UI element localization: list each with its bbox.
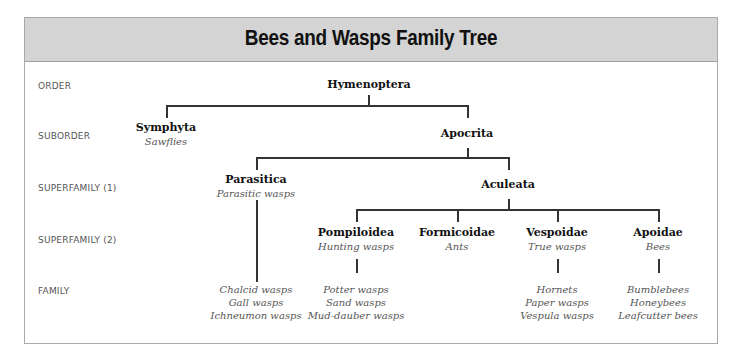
connector-parasitica-families bbox=[256, 200, 258, 282]
family-list-pompiloidea: Potter wasps Sand wasps Mud-dauber wasps bbox=[308, 283, 405, 322]
family-item: Bumblebees bbox=[618, 283, 698, 296]
node-vespoidae: Vespoidae True wasps bbox=[526, 226, 588, 253]
node-aculeata: Aculeata bbox=[481, 178, 535, 192]
family-item: Honeybees bbox=[618, 296, 698, 309]
connector-vespoidae-families bbox=[557, 259, 559, 273]
node-name: Pompiloidea bbox=[318, 226, 394, 240]
node-formicoidae: Formicoidae Ants bbox=[419, 226, 495, 253]
connector-apocrita-top bbox=[467, 105, 469, 118]
connector-pompiloidea-families bbox=[356, 259, 358, 273]
connector-order-bar bbox=[166, 105, 468, 107]
connector-aculeata-top bbox=[508, 157, 510, 170]
node-common-name: Ants bbox=[419, 240, 495, 253]
connector-parasitica-top bbox=[256, 157, 258, 170]
node-name: Parasitica bbox=[217, 173, 296, 187]
node-common-name: Bees bbox=[633, 240, 683, 253]
family-list-apoidae: Bumblebees Honeybees Leafcutter bees bbox=[618, 283, 698, 322]
connector-suborder-bar bbox=[256, 157, 509, 159]
connector-symphyta bbox=[166, 105, 168, 118]
node-name: Apoidae bbox=[633, 226, 683, 240]
rank-label-order: ORDER bbox=[38, 81, 71, 91]
family-item: Paper wasps bbox=[520, 296, 594, 309]
connector-vespoidae-top bbox=[557, 209, 559, 222]
family-item: Ichneumon wasps bbox=[210, 309, 301, 322]
node-common-name: Parasitic wasps bbox=[217, 187, 296, 200]
family-list-vespoidae: Hornets Paper wasps Vespula wasps bbox=[520, 283, 594, 322]
node-name: Aculeata bbox=[481, 178, 535, 192]
rank-label-superfamily-1: SUPERFAMILY (1) bbox=[38, 183, 117, 193]
connector-pompiloidea-top bbox=[356, 209, 358, 222]
family-item: Gall wasps bbox=[210, 296, 301, 309]
rank-label-suborder: SUBORDER bbox=[38, 131, 90, 141]
connector-apoidae-families bbox=[658, 259, 660, 273]
rank-label-family: FAMILY bbox=[38, 286, 69, 296]
node-common-name: Hunting wasps bbox=[318, 240, 394, 253]
rank-label-superfamily-2: SUPERFAMILY (2) bbox=[38, 235, 117, 245]
family-item: Vespula wasps bbox=[520, 309, 594, 322]
diagram-title: Bees and Wasps Family Tree bbox=[73, 25, 668, 51]
family-item: Hornets bbox=[520, 283, 594, 296]
node-name: Vespoidae bbox=[526, 226, 588, 240]
node-name: Formicoidae bbox=[419, 226, 495, 240]
family-item: Mud-dauber wasps bbox=[308, 309, 405, 322]
connector-superfamily-bar bbox=[356, 209, 659, 211]
node-apocrita: Apocrita bbox=[441, 127, 493, 141]
node-name: Apocrita bbox=[441, 127, 493, 141]
family-item: Sand wasps bbox=[308, 296, 405, 309]
family-list-parasitica: Chalcid wasps Gall wasps Ichneumon wasps bbox=[210, 283, 301, 322]
node-hymenoptera: Hymenoptera bbox=[327, 78, 410, 92]
family-item: Leafcutter bees bbox=[618, 309, 698, 322]
node-common-name: Sawflies bbox=[136, 135, 196, 148]
node-pompiloidea: Pompiloidea Hunting wasps bbox=[318, 226, 394, 253]
node-name: Symphyta bbox=[136, 121, 196, 135]
node-common-name: True wasps bbox=[526, 240, 588, 253]
title-bar: Bees and Wasps Family Tree bbox=[25, 18, 717, 62]
connector-apoidae-top bbox=[658, 209, 660, 222]
family-item: Chalcid wasps bbox=[210, 283, 301, 296]
family-item: Potter wasps bbox=[308, 283, 405, 296]
node-parasitica: Parasitica Parasitic wasps bbox=[217, 173, 296, 200]
connector-formicoidae-top bbox=[457, 209, 459, 222]
node-symphyta: Symphyta Sawflies bbox=[136, 121, 196, 148]
node-apoidae: Apoidae Bees bbox=[633, 226, 683, 253]
node-name: Hymenoptera bbox=[327, 78, 410, 92]
